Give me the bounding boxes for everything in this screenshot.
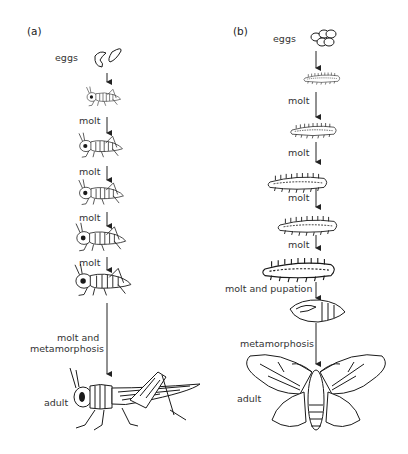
panel-a-adult-grasshopper-icon — [70, 368, 200, 430]
panel-b-larva-4-icon — [278, 216, 337, 236]
panel-a-nymph-5-icon — [75, 264, 131, 296]
panel-a-eggs-icon — [95, 49, 121, 67]
panel-a-nymph-4-icon — [76, 223, 126, 251]
panel-b-larva-2-icon — [291, 123, 337, 138]
panel-b-larva-3-icon — [268, 173, 327, 193]
panel-b-larva-5-icon — [263, 258, 335, 282]
panel-a-nymph-3-icon — [79, 179, 124, 204]
panel-b-pupa-icon — [290, 300, 345, 322]
panel-b-adult-moth-icon — [247, 355, 386, 430]
panel-b-larva-1-icon — [304, 73, 340, 85]
diagram-canvas — [0, 0, 408, 454]
panel-a-nymph-1-icon — [87, 87, 121, 106]
panel-a-nymph-2-icon — [79, 133, 122, 158]
panel-b-eggs-icon — [311, 30, 336, 46]
